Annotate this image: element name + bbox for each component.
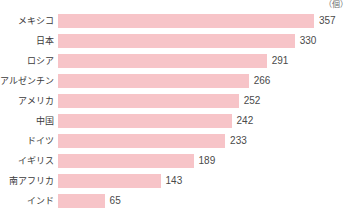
category-label: 日本 (0, 36, 58, 47)
bar-area: 291 (58, 51, 352, 71)
value-label: 242 (232, 115, 254, 127)
bar (58, 134, 225, 148)
bar-row: 日本330 (0, 31, 352, 51)
category-label: 中国 (0, 116, 58, 127)
bar (58, 54, 267, 68)
bar-area: 65 (58, 191, 352, 211)
bar-row: ロシア291 (0, 51, 352, 71)
bar-area: 242 (58, 111, 352, 131)
category-label: インド (0, 196, 58, 207)
bar-row: ドイツ233 (0, 131, 352, 151)
category-label: アメリカ (0, 96, 58, 107)
value-label: 357 (314, 15, 336, 27)
bar-area: 266 (58, 71, 352, 91)
value-label: 266 (249, 75, 271, 87)
value-label: 189 (194, 155, 216, 167)
bar-row: 南アフリカ143 (0, 171, 352, 191)
bar-row: 中国242 (0, 111, 352, 131)
value-label: 143 (161, 175, 183, 187)
bar (58, 94, 239, 108)
bar-area: 252 (58, 91, 352, 111)
bar (58, 154, 194, 168)
value-label: 233 (225, 135, 247, 147)
bar-row: アメリカ252 (0, 91, 352, 111)
category-label: ドイツ (0, 136, 58, 147)
bar (58, 14, 314, 28)
bar-rows: メキシコ357日本330ロシア291アルゼンチン266アメリカ252中国242ド… (0, 11, 352, 211)
bar (58, 34, 295, 48)
bar-row: メキシコ357 (0, 11, 352, 31)
bar (58, 174, 161, 188)
bar-chart: （個） メキシコ357日本330ロシア291アルゼンチン266アメリカ252中国… (0, 0, 352, 217)
value-label: 291 (267, 55, 289, 67)
category-label: アルゼンチン (0, 76, 58, 87)
category-label: メキシコ (0, 16, 58, 27)
bar-row: アルゼンチン266 (0, 71, 352, 91)
value-label: 252 (239, 95, 261, 107)
category-label: イギリス (0, 156, 58, 167)
bar-area: 357 (58, 11, 352, 31)
unit-label: （個） (324, 0, 348, 10)
bar-area: 330 (58, 31, 352, 51)
category-label: ロシア (0, 56, 58, 67)
value-label: 65 (105, 195, 121, 207)
bar-row: インド65 (0, 191, 352, 211)
bar-area: 233 (58, 131, 352, 151)
bar-area: 189 (58, 151, 352, 171)
bar (58, 114, 232, 128)
bar-row: イギリス189 (0, 151, 352, 171)
value-label: 330 (295, 35, 317, 47)
bar (58, 194, 105, 208)
bar (58, 74, 249, 88)
bar-area: 143 (58, 171, 352, 191)
category-label: 南アフリカ (0, 176, 58, 187)
